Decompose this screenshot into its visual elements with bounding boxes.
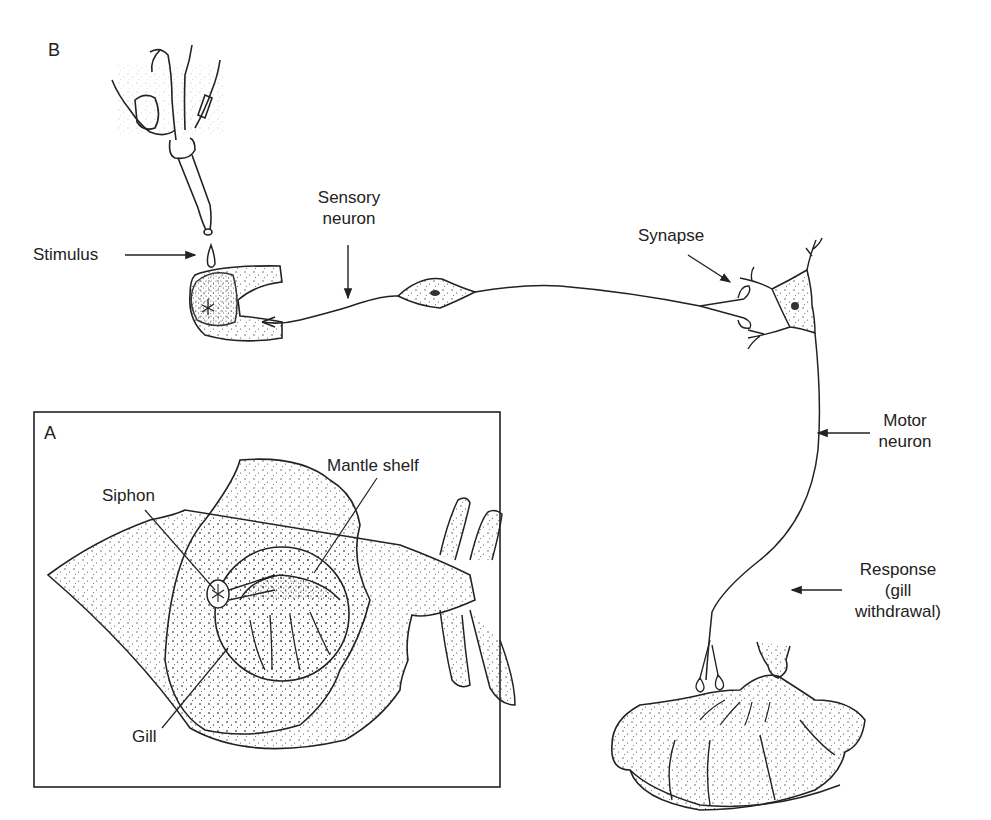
gill-label: Gill — [132, 726, 157, 747]
sensory-neuron-label-line1: Sensory — [305, 187, 393, 208]
stimulus-label: Stimulus — [33, 244, 98, 265]
motor-cell-body-icon — [772, 270, 815, 333]
motor-neuron-label-line1: Motor — [870, 410, 940, 431]
sensory-neuron-label: Sensory neuron — [305, 187, 393, 229]
sensory-neuron-label-line2: neuron — [305, 208, 393, 229]
response-label: Response (gill withdrawal) — [842, 559, 954, 622]
panel-a-letter: A — [44, 423, 56, 444]
siphon-label: Siphon — [102, 485, 155, 506]
response-label-line2: (gill — [842, 580, 954, 601]
neural-circuit-drawing — [0, 0, 991, 820]
siphon-icon — [190, 266, 282, 341]
response-label-line1: Response — [842, 559, 954, 580]
water-drop-icon — [207, 245, 215, 267]
panel-b-letter: B — [48, 40, 60, 61]
motor-neuron-label: Motor neuron — [870, 410, 940, 452]
mantle-shelf-label: Mantle shelf — [327, 455, 419, 476]
motor-neuron-label-line2: neuron — [870, 431, 940, 452]
gill-icon — [612, 642, 865, 810]
response-label-line3: withdrawal) — [842, 601, 954, 622]
synapse-label: Synapse — [638, 225, 704, 246]
